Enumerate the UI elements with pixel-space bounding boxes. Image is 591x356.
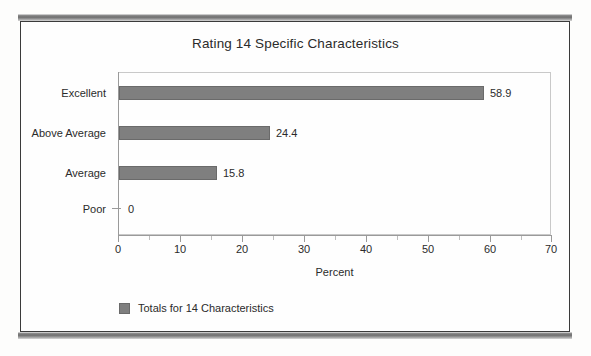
chart-legend: Totals for 14 Characteristics xyxy=(119,302,274,314)
x-tick-major xyxy=(428,236,429,242)
x-tick-label: 70 xyxy=(536,243,566,255)
x-tick-minor xyxy=(459,236,460,240)
bar-value-label: 15.8 xyxy=(223,156,244,190)
bar-value-label: 0 xyxy=(128,192,134,226)
zero-bar-tick xyxy=(112,208,121,209)
chart-title: Rating 14 Specific Characteristics xyxy=(0,36,591,51)
bar-value-label: 58.9 xyxy=(490,76,511,110)
bar-row: Above Average 24.4 xyxy=(0,116,591,150)
category-label: Average xyxy=(0,156,112,190)
bar-excellent[interactable] xyxy=(119,86,484,100)
x-tick-label: 30 xyxy=(289,243,319,255)
x-tick-label: 20 xyxy=(227,243,257,255)
x-tick-label: 0 xyxy=(103,243,133,255)
x-tick-minor xyxy=(149,236,150,240)
bar-above-average[interactable] xyxy=(119,126,270,140)
bar-row: Poor 0 xyxy=(0,192,591,226)
x-tick-major xyxy=(490,236,491,242)
category-label: Poor xyxy=(0,192,112,226)
legend-swatch-icon xyxy=(119,303,130,314)
x-tick-minor xyxy=(273,236,274,240)
scan-artifact-band-top xyxy=(18,14,572,21)
x-tick-label: 40 xyxy=(351,243,381,255)
x-tick-minor xyxy=(211,236,212,240)
x-tick-major xyxy=(304,236,305,242)
x-tick-minor xyxy=(397,236,398,240)
bar-row: Average 15.8 xyxy=(0,156,591,190)
x-tick-major xyxy=(551,236,552,242)
x-tick-label: 10 xyxy=(165,243,195,255)
bar-value-label: 24.4 xyxy=(276,116,297,150)
x-tick-major xyxy=(366,236,367,242)
category-label: Above Average xyxy=(0,116,112,150)
bar-average[interactable] xyxy=(119,166,217,180)
x-axis-title: Percent xyxy=(118,266,551,278)
x-tick-major xyxy=(180,236,181,242)
x-tick-major xyxy=(242,236,243,242)
x-tick-label: 50 xyxy=(413,243,443,255)
legend-entry-label: Totals for 14 Characteristics xyxy=(138,302,274,314)
category-label: Excellent xyxy=(0,76,112,110)
x-tick-minor xyxy=(521,236,522,240)
bar-row: Excellent 58.9 xyxy=(0,76,591,110)
x-tick-minor xyxy=(335,236,336,240)
scan-artifact-band-bottom xyxy=(18,332,572,339)
x-tick-major xyxy=(118,236,119,242)
x-tick-label: 60 xyxy=(475,243,505,255)
chart-page: Rating 14 Specific Characteristics Excel… xyxy=(0,0,591,356)
